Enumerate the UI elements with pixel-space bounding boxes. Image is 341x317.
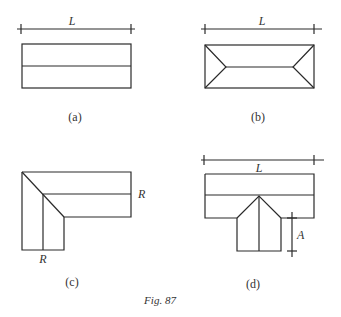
panel-a: L (a) [17, 14, 135, 124]
dimension-label: L [255, 161, 263, 175]
hip-lines-right [293, 45, 314, 88]
panel-c: R R (c) [22, 172, 146, 289]
panel-label: (b) [251, 110, 265, 124]
panel-d: L A (d) [201, 155, 324, 291]
dimension-line-a [287, 212, 297, 257]
panel-label: (d) [246, 277, 260, 291]
panel-b: L (b) [201, 14, 322, 124]
dimension-line-l [17, 24, 135, 34]
ridge-label-r: R [137, 187, 146, 201]
figure-caption: Fig. 87 [143, 294, 176, 306]
dimension-label: L [68, 14, 76, 28]
dimension-line-l [201, 155, 324, 165]
hip-lines-left [205, 45, 226, 88]
roof-outline [22, 172, 131, 250]
figure-87: L (a) L (b) R R (c) L [0, 0, 341, 317]
panel-label: (a) [68, 110, 81, 124]
panel-label: (c) [65, 275, 78, 289]
dimension-label-a: A [296, 228, 305, 242]
ridge-label-r: R [38, 252, 47, 266]
dimension-label: L [258, 14, 266, 28]
